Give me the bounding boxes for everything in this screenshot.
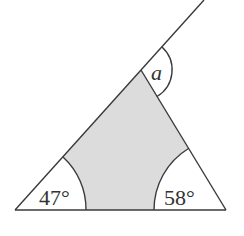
triangle-diagram: 47° 58° a: [0, 0, 244, 236]
exterior-angle-label: a: [151, 60, 162, 85]
left-angle-label: 47°: [39, 185, 70, 210]
diagram-svg: 47° 58° a: [0, 0, 244, 236]
right-angle-label: 58°: [164, 185, 195, 210]
